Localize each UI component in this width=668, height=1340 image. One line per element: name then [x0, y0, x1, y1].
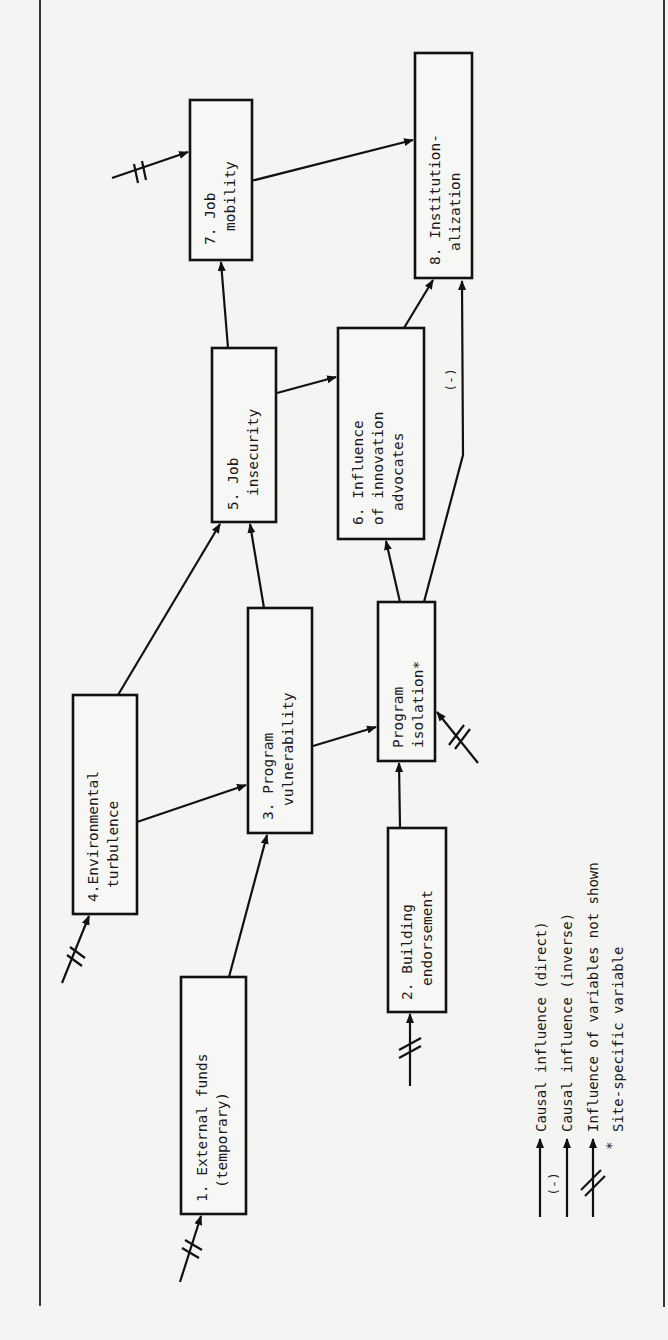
svg-text:mobility: mobility	[222, 161, 238, 231]
edge-3-to-isolation	[313, 727, 376, 746]
node-1-external-funds: 1. External funds (temporary)	[181, 977, 246, 1214]
exogenous-input-1	[180, 1216, 202, 1282]
svg-text:endorsement: endorsement	[419, 890, 435, 986]
edge-isolation-to-8-inverse	[424, 281, 463, 602]
svg-text:isolation*: isolation*	[410, 661, 426, 748]
node-6-influence-of-innovation-advocates: 6. Influence of innovation advocates	[338, 328, 424, 539]
edge-2-to-isolation	[399, 763, 400, 828]
edge-6-to-8	[404, 280, 433, 328]
legend-not-shown-label: Influence of variables not shown	[585, 862, 601, 1132]
node-8-institutionalization: 8. Institution- alization	[415, 53, 472, 278]
edge-1-to-3	[229, 835, 267, 977]
svg-text:alization: alization	[447, 172, 463, 251]
causal-network-diagram: (-) 7. Job mobility 8. Institution- aliz…	[0, 0, 668, 1340]
svg-text:7. Job: 7. Job	[202, 193, 218, 245]
node-7-job-mobility: 7. Job mobility	[190, 100, 252, 260]
edge-4-to-5	[118, 524, 220, 695]
svg-text:4.Environmental: 4.Environmental	[85, 771, 101, 902]
svg-text:6. Influence: 6. Influence	[350, 420, 366, 525]
svg-text:1. External funds: 1. External funds	[194, 1054, 210, 1202]
legend: (-) * Causal influence (direct) Causal i…	[533, 862, 626, 1217]
svg-text:advocates: advocates	[390, 432, 406, 511]
svg-text:vulnerability: vulnerability	[280, 692, 296, 806]
svg-text:of innovation: of innovation	[370, 412, 386, 526]
edge-isolation-to-6	[386, 541, 400, 602]
node-2-building-endorsement: 2. Building endorsement	[388, 828, 446, 1012]
edge-4-to-3	[137, 785, 246, 822]
exogenous-input-isolation	[437, 712, 478, 763]
legend-inverse-label: Causal influence (inverse)	[559, 913, 575, 1132]
node-program-isolation: Program isolation*	[378, 602, 435, 761]
legend-inverse-marker: (-)	[546, 1172, 561, 1195]
svg-text:Program: Program	[390, 687, 406, 748]
svg-text:5. Job: 5. Job	[225, 458, 241, 510]
exogenous-input-2	[399, 1014, 421, 1086]
inverse-marker-label: (-)	[443, 368, 458, 391]
node-5-job-insecurity: 5. Job insecurity	[212, 348, 276, 522]
svg-text:insecurity: insecurity	[245, 408, 261, 496]
edge-5-to-6	[277, 377, 336, 393]
node-4-environmental-turbulence: 4.Environmental turbulence	[73, 695, 137, 914]
svg-text:(temporary): (temporary)	[214, 1092, 230, 1188]
svg-text:2. Building: 2. Building	[399, 904, 415, 1000]
edge-5-to-7	[221, 262, 228, 348]
legend-direct-label: Causal influence (direct)	[533, 921, 549, 1132]
svg-text:8. Institution-: 8. Institution-	[427, 134, 443, 265]
legend-site-specific-label: Site-specific variable	[610, 947, 626, 1132]
exogenous-input-7	[112, 152, 188, 183]
legend-asterisk: *	[603, 1142, 619, 1150]
exogenous-input-4	[62, 916, 89, 983]
node-3-program-vulnerability: 3. Program vulnerability	[248, 608, 312, 833]
svg-text:3. Program: 3. Program	[260, 732, 276, 820]
edge-7-to-8	[251, 140, 413, 181]
svg-text:turbulence: turbulence	[105, 801, 121, 888]
edge-3-to-5	[250, 524, 264, 608]
